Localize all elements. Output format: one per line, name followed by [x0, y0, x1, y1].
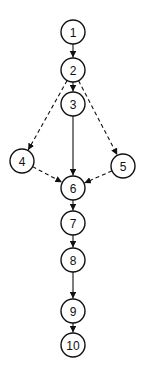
node-label: 7: [70, 217, 77, 231]
node-label: 6: [70, 182, 77, 196]
nodes-layer: 12345678910: [10, 20, 135, 357]
flow-graph: 12345678910: [0, 0, 143, 370]
node-label: 8: [70, 254, 77, 268]
node-7: 7: [61, 211, 85, 235]
edge-4-to-6: [33, 167, 62, 183]
node-2: 2: [61, 58, 85, 82]
node-label: 3: [70, 98, 77, 112]
node-label: 4: [19, 155, 26, 169]
node-9: 9: [61, 299, 85, 323]
node-label: 9: [70, 305, 77, 319]
node-3: 3: [61, 92, 85, 116]
edge-2-to-4: [28, 80, 67, 150]
edge-5-to-6: [84, 171, 112, 183]
node-6: 6: [61, 176, 85, 200]
node-label: 2: [70, 64, 77, 78]
node-8: 8: [61, 248, 85, 272]
node-10: 10: [61, 333, 85, 357]
node-1: 1: [61, 20, 85, 44]
node-4: 4: [10, 149, 34, 173]
node-5: 5: [111, 154, 135, 178]
node-label: 1: [70, 26, 77, 40]
edge-2-to-5: [79, 81, 118, 155]
node-label: 5: [120, 160, 127, 174]
node-label: 10: [66, 339, 80, 353]
